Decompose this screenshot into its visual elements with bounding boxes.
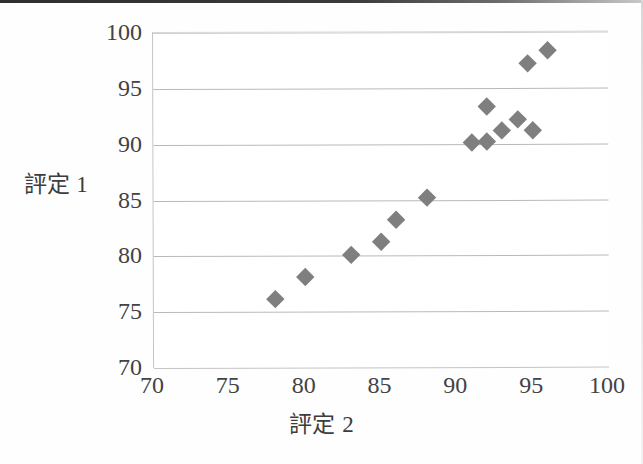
x-tick-label-75: 75 [193,372,263,398]
gridline-y-95 [153,87,608,89]
chart-page: 評定 1 707580859095100 707580859095100 評定 … [0,0,643,464]
x-axis-title: 評定 2 [0,412,643,438]
data-point [296,268,314,286]
data-point [266,290,284,308]
x-tick-label-80: 80 [269,372,339,398]
gridline-y-85 [154,199,609,201]
y-tick-label-100: 100 [86,20,142,44]
data-point [508,110,526,128]
data-point [493,121,511,139]
x-tick-label-95: 95 [496,372,566,398]
data-point [538,42,556,60]
data-point [523,121,541,139]
gridline-y-75 [154,311,609,313]
scan-top-edge [0,0,643,3]
y-tick-label-75: 75 [86,299,142,323]
gridline-y-70 [154,367,609,369]
x-tick-label-100: 100 [572,372,642,398]
data-point [478,132,496,150]
gridline-y-90 [153,143,608,145]
y-axis-tick-labels: 707580859095100 [84,32,142,368]
x-tick-label-85: 85 [345,372,415,398]
data-point [387,211,405,229]
x-tick-label-70: 70 [117,372,187,398]
data-point [372,233,390,251]
gridline-y-80 [154,255,609,257]
data-point [478,98,496,116]
gridline-y-100 [153,32,608,34]
x-tick-label-90: 90 [420,372,490,398]
data-point [342,245,360,263]
data-point [417,188,435,206]
y-tick-label-95: 95 [86,76,142,100]
plot-area [152,31,609,368]
y-tick-label-85: 85 [86,188,142,212]
data-point [519,54,537,72]
y-tick-label-90: 90 [86,132,142,156]
y-tick-label-80: 80 [86,243,142,267]
x-axis-tick-labels: 707580859095100 [152,372,608,406]
